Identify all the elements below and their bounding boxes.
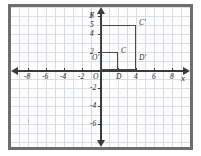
coordinate-plane-figure: -8 -6 -4 -2 O D 4 6 8 6 5 4 2 -2 -4 -6 y… <box>0 0 201 156</box>
gridline-vertical <box>73 7 74 147</box>
vertex-label-C-prime: C' <box>139 19 146 27</box>
left-margin-strip <box>0 0 8 156</box>
y-tick-label-5: 5 <box>90 21 94 29</box>
x-tick-label-4: 4 <box>134 73 138 81</box>
x-tick-label-neg8: -8 <box>24 73 30 81</box>
y-tick-label-4: 4 <box>90 30 94 38</box>
stray-mark <box>28 119 29 123</box>
y-axis-arrow-down <box>97 140 105 147</box>
y-tick-label-neg2: -2 <box>90 84 96 92</box>
y-axis-label: y <box>90 9 94 18</box>
x-tick-label-neg4: -4 <box>60 73 66 81</box>
gridline-vertical <box>37 7 38 147</box>
vertex-label-C: C <box>121 47 126 55</box>
x-tick-label-neg6: -6 <box>42 73 48 81</box>
y-tick <box>98 124 102 125</box>
vertex-label-O-prime: O' <box>92 54 99 62</box>
plot-area: -8 -6 -4 -2 O D 4 6 8 6 5 4 2 -2 -4 -6 y… <box>11 7 190 147</box>
x-tick-label-6: 6 <box>152 73 156 81</box>
x-axis-label: x <box>181 74 185 83</box>
y-tick <box>98 88 102 89</box>
preimage-rectangle <box>100 52 118 70</box>
gridline-vertical <box>145 7 146 147</box>
x-tick-label-D: D <box>116 73 121 81</box>
gridline-vertical <box>163 7 164 147</box>
y-axis-arrow-up <box>97 7 105 14</box>
gridline-vertical <box>55 7 56 147</box>
gridline-vertical <box>19 7 20 147</box>
x-axis-arrow-left <box>11 67 18 75</box>
x-tick-label-origin: O <box>93 73 98 81</box>
y-tick-label-neg4: -4 <box>90 102 96 110</box>
y-tick-label-neg6: -6 <box>90 120 96 128</box>
vertex-label-D-prime: D' <box>139 54 146 62</box>
y-tick <box>98 106 102 107</box>
x-tick-label-neg2: -2 <box>78 73 84 81</box>
y-tick <box>98 16 102 17</box>
x-tick-label-8: 8 <box>170 73 174 81</box>
